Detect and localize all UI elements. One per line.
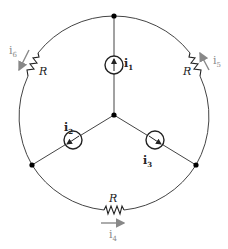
resistor-left <box>27 53 39 76</box>
node-center <box>111 112 116 117</box>
label-r-bottom: R <box>109 193 117 204</box>
label-i4: i4 <box>109 229 117 243</box>
label-r-left: R <box>39 66 47 77</box>
label-i2: i2 <box>64 122 73 135</box>
node-left <box>29 162 34 167</box>
label-i5: i5 <box>213 55 221 69</box>
node-right <box>193 162 198 167</box>
label-i3: i3 <box>143 155 152 168</box>
circuit-diagram: i1 i2 i3 R R R i6 i5 i4 <box>0 0 228 249</box>
label-i1: i1 <box>124 58 133 71</box>
node-top <box>111 13 116 18</box>
arrow-i5-icon <box>200 53 209 70</box>
current-source-i1 <box>105 56 123 74</box>
label-r-right: R <box>183 66 191 77</box>
circuit-svg <box>0 0 228 249</box>
label-i6: i6 <box>9 45 17 59</box>
current-source-i3 <box>146 131 164 149</box>
arrow-i6-icon <box>19 50 29 70</box>
internal-wires <box>32 16 196 165</box>
resistor-bottom <box>104 206 124 214</box>
